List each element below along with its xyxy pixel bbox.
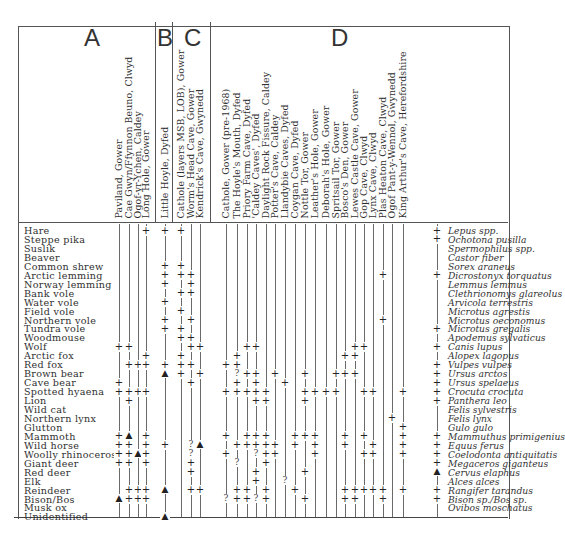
present-mark: + xyxy=(232,387,242,397)
present-mark: + xyxy=(221,449,231,459)
site-column-rule xyxy=(392,224,393,517)
site-column-rule xyxy=(285,224,286,517)
site-label: Lynx Cave, Clwyd xyxy=(368,132,377,218)
present-mark: + xyxy=(290,485,300,495)
site-column-rule xyxy=(383,224,384,517)
site-label: Kendrick's Cave, Gwynedd xyxy=(195,89,204,218)
present-mark: + xyxy=(300,467,310,477)
present-mark: + xyxy=(261,396,271,406)
site-label: Cathole (layers MSB, LOB), Gower xyxy=(176,49,185,218)
present-mark: + xyxy=(176,288,186,298)
site-label: Bosco's Den, Gower xyxy=(340,121,349,218)
site-label: Nottle Tor, Gower xyxy=(300,132,309,218)
present-mark: + xyxy=(359,342,369,352)
present-mark: + xyxy=(340,440,350,450)
group-divider-a-b xyxy=(155,22,156,222)
species-latin-name: Ovibos moschatus xyxy=(448,503,533,512)
present-mark: + xyxy=(251,476,261,486)
present-mark: + xyxy=(300,396,310,406)
site-label: 'Caldey Caves', Dyfed xyxy=(251,113,260,218)
site-label: Paviland, Gower xyxy=(114,139,123,218)
present-mark: + xyxy=(176,306,186,316)
dated-mark-icon: ▲ xyxy=(195,440,205,449)
group-divider-b-c xyxy=(172,22,173,222)
present-mark: + xyxy=(280,378,290,388)
present-mark: + xyxy=(387,413,397,423)
present-mark: + xyxy=(398,387,408,397)
present-mark: + xyxy=(141,387,151,397)
present-mark: + xyxy=(186,315,196,325)
present-mark: + xyxy=(160,297,170,307)
present-mark: + xyxy=(340,351,350,361)
present-mark: + xyxy=(176,270,186,280)
dated-mark-icon: ▲ xyxy=(160,369,170,378)
present-mark: + xyxy=(195,485,205,495)
present-mark: + xyxy=(432,494,442,504)
present-mark: + xyxy=(176,369,186,379)
site-label: Potter's Cave, Caldey xyxy=(270,114,279,218)
site-column-rule xyxy=(138,224,139,517)
site-column-rule xyxy=(373,224,374,517)
group-label-c: C xyxy=(184,26,201,50)
site-column-rule xyxy=(226,224,227,517)
present-mark: + xyxy=(300,494,310,504)
species-common-name: Unidentified xyxy=(24,512,88,522)
uncertain-mark: ? xyxy=(280,476,290,485)
present-mark: + xyxy=(124,396,134,406)
present-mark: + xyxy=(261,458,271,468)
present-mark: + xyxy=(124,458,134,468)
header-separator xyxy=(18,222,508,223)
site-label: Long Hole, Gower xyxy=(141,130,150,218)
site-column-rule xyxy=(295,224,296,517)
present-mark: + xyxy=(398,485,408,495)
present-mark: + xyxy=(141,458,151,468)
present-mark: + xyxy=(141,226,151,236)
site-column-rule xyxy=(129,224,130,517)
site-label: Coygan Cave, Dyfed xyxy=(290,120,299,218)
dated-mark-icon: ▲ xyxy=(160,485,170,494)
site-label: Cathole, Gower (pre-1968) xyxy=(221,88,230,218)
site-label: Little Hoyle, Dyfed xyxy=(160,126,169,218)
present-mark: + xyxy=(261,494,271,504)
present-mark: + xyxy=(321,387,331,397)
site-label: Ogof Pant-y-Wennol, Gwynedd xyxy=(387,72,396,218)
present-mark: + xyxy=(310,387,320,397)
present-mark: + xyxy=(221,431,231,441)
present-mark: + xyxy=(350,351,360,361)
site-column-rule xyxy=(315,224,316,517)
present-mark: + xyxy=(432,324,442,334)
site-column-rule xyxy=(403,224,404,517)
present-mark: + xyxy=(160,226,170,236)
present-mark: + xyxy=(251,342,261,352)
uncertain-mark: ? xyxy=(221,494,231,503)
present-mark: + xyxy=(114,387,124,397)
present-mark: + xyxy=(186,467,196,477)
present-mark: + xyxy=(432,342,442,352)
present-mark: + xyxy=(251,396,261,406)
present-mark: + xyxy=(221,360,231,370)
site-column-rule xyxy=(266,224,267,517)
present-mark: + xyxy=(368,485,378,495)
present-mark: + xyxy=(141,360,151,370)
present-mark: + xyxy=(114,458,124,468)
present-mark: + xyxy=(398,449,408,459)
present-mark: + xyxy=(432,270,442,280)
present-mark: + xyxy=(186,378,196,388)
present-mark: + xyxy=(350,494,360,504)
uncertain-mark: ? xyxy=(251,449,261,458)
present-mark: + xyxy=(432,234,442,244)
group-label-a: A xyxy=(84,26,100,50)
site-column-rule xyxy=(119,224,120,517)
uncertain-mark: ? xyxy=(232,458,242,467)
site-label: Deborah's Hole, Gower xyxy=(321,105,330,218)
site-label: King Arthur's Cave, Herefordshire xyxy=(398,51,407,218)
present-mark: + xyxy=(160,440,170,450)
present-mark: + xyxy=(270,449,280,459)
present-mark: + xyxy=(141,494,151,504)
uncertain-mark: ? xyxy=(251,494,261,503)
present-mark: + xyxy=(340,494,350,504)
present-mark: + xyxy=(232,494,242,504)
present-mark: + xyxy=(176,226,186,236)
dated-mark-icon: ▲ xyxy=(160,512,170,521)
present-mark: + xyxy=(221,387,231,397)
